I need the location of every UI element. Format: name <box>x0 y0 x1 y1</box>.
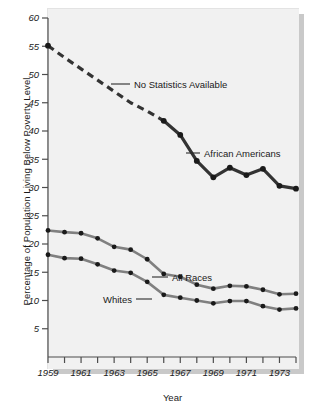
data-point-marker <box>293 186 299 192</box>
data-point-marker <box>277 292 282 297</box>
x-tick-label: 1965 <box>137 367 159 378</box>
data-point-marker <box>277 307 282 312</box>
data-point-marker <box>112 268 117 273</box>
annotation-african-americans-label: African Americans <box>204 148 281 159</box>
x-tick-label: 1959 <box>37 367 59 378</box>
data-point-marker <box>194 298 199 303</box>
data-point-marker <box>95 262 100 267</box>
x-axis: 19591961196319651967196919711973 <box>37 357 296 378</box>
data-point-marker <box>79 256 84 261</box>
data-point-marker <box>294 306 299 311</box>
y-tick-label: 60 <box>28 12 39 23</box>
data-point-marker <box>45 43 51 49</box>
data-point-marker <box>277 183 283 189</box>
data-point-marker <box>227 165 233 171</box>
x-axis-title: Year <box>47 392 298 403</box>
series-line-all-races <box>48 230 296 294</box>
data-point-marker <box>211 286 216 291</box>
y-tick-label: 5 <box>34 323 40 334</box>
x-tick-label: 1973 <box>269 367 291 378</box>
annotation-african-americans: African Americans <box>186 148 281 159</box>
data-point-marker <box>177 132 183 138</box>
x-tick-label: 1967 <box>170 367 192 378</box>
annotation-whites-label: Whites <box>103 294 132 305</box>
series-markers-all-races <box>46 228 299 297</box>
data-point-marker <box>128 270 133 275</box>
x-tick-label: 1961 <box>70 367 91 378</box>
x-tick-label: 1963 <box>104 367 126 378</box>
data-point-marker <box>244 172 250 178</box>
annotation-all-races-label: All Races <box>172 272 212 283</box>
annotation-no-statistics: No Statistics Available <box>111 79 227 90</box>
data-point-marker <box>128 247 133 252</box>
annotation-no-statistics-label: No Statistics Available <box>134 79 227 90</box>
y-axis-title: Percentage of Population Living Below Po… <box>21 42 32 342</box>
data-point-marker <box>261 287 266 292</box>
data-point-marker <box>260 166 266 172</box>
data-point-marker <box>161 272 166 277</box>
series-markers-african-americans <box>45 43 299 192</box>
x-tick-label: 1969 <box>203 367 225 378</box>
data-point-marker <box>194 158 200 164</box>
data-point-marker <box>210 174 216 180</box>
data-point-marker <box>178 295 183 300</box>
data-point-marker <box>145 279 150 284</box>
data-point-marker <box>161 118 167 124</box>
chart-figure: 51015202530354045505560 1959196119631965… <box>0 0 309 412</box>
data-point-marker <box>194 282 199 287</box>
data-point-marker <box>161 292 166 297</box>
annotation-whites: Whites <box>103 294 152 305</box>
data-point-marker <box>79 231 84 236</box>
x-tick-label: 1971 <box>236 367 257 378</box>
data-point-marker <box>227 299 232 304</box>
data-point-marker <box>112 244 117 249</box>
data-point-marker <box>211 301 216 306</box>
data-point-marker <box>294 291 299 296</box>
data-point-marker <box>95 236 100 241</box>
chart-canvas: 51015202530354045505560 1959196119631965… <box>0 0 309 412</box>
data-point-marker <box>46 252 51 257</box>
data-point-marker <box>62 256 67 261</box>
data-point-marker <box>244 284 249 289</box>
data-point-marker <box>244 299 249 304</box>
data-point-marker <box>261 304 266 309</box>
data-point-marker <box>62 230 67 235</box>
data-point-marker <box>227 283 232 288</box>
data-point-marker <box>46 228 51 233</box>
data-point-marker <box>145 257 150 262</box>
